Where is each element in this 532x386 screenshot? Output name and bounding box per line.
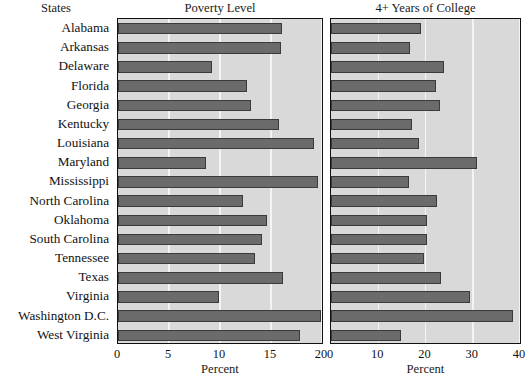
gridline (321, 19, 323, 343)
state-label: Virginia (66, 289, 109, 302)
state-label: Arkansas (60, 40, 109, 53)
bar (118, 291, 219, 303)
state-label: Mississippi (49, 174, 109, 187)
state-label: North Carolina (30, 194, 109, 207)
bar (118, 310, 321, 322)
state-label-column: States AlabamaArkansasDelawareFloridaGeo… (0, 0, 117, 386)
bar-chart-figure: States AlabamaArkansasDelawareFloridaGeo… (0, 0, 532, 386)
bar (118, 119, 279, 131)
x-tick-label: 0 (114, 347, 120, 362)
bar (118, 215, 267, 227)
x-tick-label: 15 (264, 347, 276, 362)
state-label: Louisiana (57, 136, 109, 149)
bar (331, 119, 412, 131)
x-axis-poverty-level: Percent 05101520 (117, 345, 323, 385)
bar (118, 195, 243, 207)
bar (331, 23, 421, 35)
plot-area-college (330, 18, 521, 344)
x-tick-label: 0 (327, 347, 333, 362)
panel-poverty-level: Poverty Level (117, 18, 323, 344)
bar (331, 310, 513, 322)
state-label: Texas (78, 270, 109, 283)
bar (118, 100, 251, 112)
bar (118, 23, 282, 35)
panel-college: 4+ Years of College (330, 18, 521, 344)
x-tick-label: 40 (513, 347, 525, 362)
state-label: Alabama (61, 21, 109, 34)
bar (118, 253, 255, 265)
state-label: Maryland (58, 155, 109, 168)
bar (331, 234, 427, 246)
plot-area-poverty-level (117, 18, 323, 344)
x-axis-college: Percent 010203040 (330, 345, 521, 385)
state-label: Delaware (58, 59, 109, 72)
bar (118, 272, 283, 284)
bar (331, 215, 427, 227)
bar (331, 61, 444, 73)
x-tick-label: 30 (466, 347, 478, 362)
bar (118, 80, 247, 92)
x-tick-label: 20 (315, 347, 327, 362)
state-label: South Carolina (30, 232, 110, 245)
x-tick-label: 20 (418, 347, 430, 362)
bar (331, 195, 437, 207)
bar (331, 253, 424, 265)
state-label: Tennessee (55, 251, 109, 264)
bar (118, 61, 212, 73)
gridline (519, 19, 521, 343)
bar (331, 330, 401, 342)
states-column-header: States (0, 1, 112, 16)
x-tick-label: 10 (371, 347, 383, 362)
bar (331, 80, 436, 92)
bar (118, 157, 206, 169)
bar (118, 330, 300, 342)
state-label: Kentucky (58, 117, 109, 130)
state-label: Georgia (67, 98, 109, 111)
state-label: Florida (71, 79, 109, 92)
x-axis-title-college: Percent (330, 362, 521, 377)
bar (331, 138, 419, 150)
bar (118, 176, 318, 188)
bar (331, 291, 470, 303)
bar (331, 42, 410, 54)
gridline (472, 19, 474, 343)
bar (331, 100, 440, 112)
panel-title-college: 4+ Years of College (330, 1, 521, 16)
bar (331, 157, 477, 169)
state-label: West Virginia (37, 328, 109, 341)
bar (331, 176, 409, 188)
bar (331, 272, 441, 284)
panel-title-poverty-level: Poverty Level (117, 1, 323, 16)
bar (118, 138, 314, 150)
x-tick-label: 5 (165, 347, 171, 362)
bar (118, 234, 262, 246)
x-axis-title-poverty-level: Percent (117, 362, 323, 377)
bar (118, 42, 281, 54)
state-label: Washington D.C. (18, 309, 109, 322)
state-label: Oklahoma (54, 213, 109, 226)
x-tick-label: 10 (213, 347, 225, 362)
